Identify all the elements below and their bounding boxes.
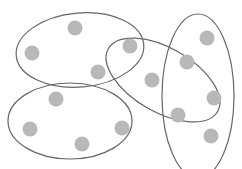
node-dot-n2 (25, 46, 40, 61)
node-dot-n7 (200, 31, 215, 46)
node-dot-n1 (68, 21, 83, 36)
hyperedge-layer (8, 8, 234, 169)
node-layer (23, 21, 222, 152)
node-dot-n4 (123, 39, 138, 54)
hypergraph-diagram (0, 0, 242, 169)
node-dot-n8 (207, 91, 222, 106)
node-dot-n9 (171, 108, 186, 123)
node-dot-n11 (49, 92, 64, 107)
node-dot-n5 (145, 73, 160, 88)
node-dot-n10 (204, 129, 219, 144)
node-dot-n13 (75, 137, 90, 152)
hyperedge-ellipse-e4 (162, 14, 234, 169)
node-dot-n12 (23, 122, 38, 137)
node-dot-n3 (91, 65, 106, 80)
node-dot-n14 (115, 121, 130, 136)
node-dot-n6 (180, 55, 195, 70)
hyperedge-ellipse-e2 (8, 83, 132, 159)
